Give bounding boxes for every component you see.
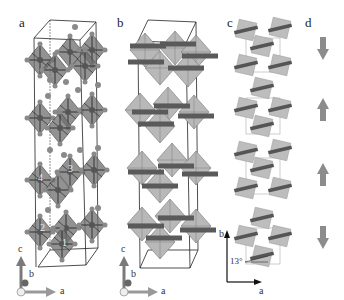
axis-label-a: a	[259, 285, 263, 296]
site-label-2: 2	[40, 222, 45, 233]
tilt-angle-label: 13°	[230, 256, 243, 266]
spin-arrow-down-icon	[317, 226, 329, 249]
panel-label-d: d	[305, 15, 312, 31]
site-label-4: 4	[38, 172, 43, 183]
panel-b-structure	[125, 20, 218, 268]
figure-canvas	[0, 0, 344, 300]
site-label-1: 1	[62, 237, 67, 248]
axis-label-b: b	[219, 228, 224, 239]
axis-label-c: c	[121, 243, 125, 254]
axis-label-b: b	[131, 268, 136, 279]
panel-a-structure	[25, 20, 110, 267]
spin-arrow-up-icon	[317, 163, 329, 186]
spin-arrow-up-icon	[317, 98, 329, 121]
axis-label-a: a	[60, 285, 64, 296]
spin-arrow-down-icon	[317, 37, 329, 60]
axis-label-a: a	[161, 285, 165, 296]
axis-label-b: b	[29, 268, 34, 279]
panel-label-a: a	[19, 15, 25, 31]
site-label-3: 3	[68, 163, 73, 174]
panel-c-structure	[234, 17, 292, 267]
panel-label-c: c	[227, 15, 233, 31]
panel-b-axes	[119, 256, 158, 297]
panel-d-arrows	[317, 37, 329, 249]
axis-label-c: c	[18, 243, 22, 254]
panel-label-b: b	[117, 15, 124, 31]
